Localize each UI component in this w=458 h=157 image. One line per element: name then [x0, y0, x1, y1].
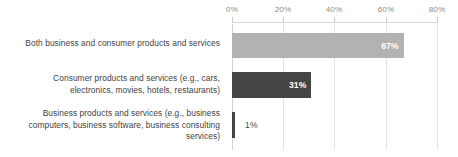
gridline-80	[437, 24, 438, 150]
axis-tick-label-80: 80%	[429, 5, 446, 15]
axis-tick-0	[232, 17, 233, 23]
category-label-line: electronics, movies, hotels, restaurants…	[70, 85, 220, 95]
axis-tick-label-0: 0%	[226, 5, 238, 15]
category-label-line: Business products and services (e.g., bu…	[43, 108, 220, 118]
category-label-line: computers, business software, business c…	[29, 120, 220, 130]
value-axis: 0% 20% 40% 60% 80%	[232, 0, 438, 24]
category-axis-labels: Both business and consumer products and …	[0, 0, 226, 157]
category-label-consumer-products: Consumer products and services (e.g., ca…	[0, 73, 220, 96]
axis-tick-20	[283, 17, 284, 23]
axis-tick-label-20: 20%	[275, 5, 292, 15]
plot-area: 67% 31% 1%	[232, 24, 437, 150]
bar-value-label: 1%	[245, 120, 258, 130]
category-label-line: Consumer products and services (e.g., ca…	[53, 73, 220, 83]
bar-business-products[interactable]	[232, 112, 235, 138]
axis-tick-label-40: 40%	[326, 5, 343, 15]
axis-tick-40	[334, 17, 335, 23]
axis-tick-60	[386, 17, 387, 23]
bar-value-label: 67%	[381, 41, 399, 51]
axis-tick-label-60: 60%	[378, 5, 395, 15]
bar-chart: Both business and consumer products and …	[0, 0, 458, 157]
category-label-both-business-and-consumer: Both business and consumer products and …	[0, 38, 220, 50]
category-label-line: services)	[186, 131, 220, 141]
category-label-business-products: Business products and services (e.g., bu…	[0, 108, 220, 143]
bar-consumer-products[interactable]: 31%	[232, 72, 311, 98]
bar-value-label: 31%	[289, 80, 307, 90]
axis-tick-80	[437, 17, 438, 23]
bar-both-business-and-consumer[interactable]: 67%	[232, 33, 404, 58]
category-label-line: Both business and consumer products and …	[25, 38, 220, 48]
